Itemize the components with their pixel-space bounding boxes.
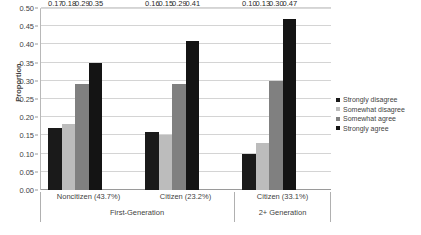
- y-axis-tick-label: 0.50: [19, 4, 34, 13]
- bar[interactable]: 0.15: [159, 135, 173, 190]
- bar-value-label: 0.41: [186, 0, 201, 8]
- x-axis-supercategory-label: 2+ Generation: [234, 208, 331, 217]
- bar-value-label: 0.15: [159, 0, 174, 8]
- y-axis-tick-label: 0.00: [19, 186, 34, 195]
- bar-cluster: 0.160.150.290.41: [138, 9, 235, 190]
- bar-item[interactable]: 0.13: [256, 9, 270, 190]
- bar[interactable]: 0.13: [256, 143, 270, 190]
- bar[interactable]: 0.29: [75, 84, 89, 190]
- legend-label: Somewhat agree: [343, 115, 396, 122]
- bar-value-label: 0.10: [242, 0, 257, 8]
- bar[interactable]: 0.10: [242, 154, 256, 190]
- x-axis-separator: [234, 192, 235, 222]
- y-axis-ticks: 0.000.050.100.150.200.250.300.350.400.45…: [0, 8, 38, 190]
- bar[interactable]: 0.17: [48, 128, 62, 190]
- y-axis-tick-mark: [35, 190, 38, 191]
- bar-value-label: 0.35: [89, 0, 104, 8]
- y-axis-tick-mark: [35, 26, 38, 27]
- bar[interactable]: 0.41: [186, 41, 200, 190]
- y-axis-tick-label: 0.25: [19, 95, 34, 104]
- bar-chart: Proportion 0.000.050.100.150.200.250.300…: [0, 0, 421, 235]
- y-axis-tick-mark: [35, 117, 38, 118]
- legend-label: Strongly agree: [343, 125, 389, 132]
- bar-item[interactable]: 0.10: [242, 9, 256, 190]
- x-axis-categories: Noncitizen (43.7%)Citizen (23.2%)Citizen…: [40, 192, 331, 232]
- bar-value-label: 0.13: [256, 0, 271, 8]
- bar-groups: 0.170.180.290.350.160.150.290.410.100.13…: [41, 9, 331, 190]
- bar-item[interactable]: 0.47: [283, 9, 297, 190]
- bar-item[interactable]: 0.30: [269, 9, 283, 190]
- legend-label: Strongly disagree: [343, 96, 397, 103]
- x-axis-separator: [40, 192, 41, 222]
- x-axis-category-label: Citizen (23.2%): [137, 192, 234, 201]
- legend-swatch-icon: [336, 107, 340, 111]
- y-axis-tick-mark: [35, 62, 38, 63]
- y-axis-tick-mark: [35, 99, 38, 100]
- y-axis-tick-label: 0.40: [19, 40, 34, 49]
- bar-group: 0.100.130.300.47: [235, 9, 332, 190]
- legend-swatch-icon: [336, 98, 340, 102]
- bar[interactable]: 0.16: [145, 132, 159, 190]
- bar-value-label: 0.29: [172, 0, 187, 8]
- y-axis-tick-mark: [35, 8, 38, 9]
- bar[interactable]: 0.47: [283, 19, 297, 190]
- legend-item[interactable]: Somewhat disagree: [336, 106, 421, 113]
- y-axis-tick-label: 0.20: [19, 113, 34, 122]
- x-axis-separator: [330, 192, 331, 222]
- bar-group: 0.170.180.290.35: [41, 9, 138, 190]
- legend-item[interactable]: Somewhat agree: [336, 115, 421, 122]
- legend-swatch-icon: [336, 117, 340, 121]
- y-axis-tick-mark: [35, 135, 38, 136]
- bar-value-label: 0.18: [62, 0, 77, 8]
- bar-value-label: 0.30: [269, 0, 284, 8]
- y-axis-tick-label: 0.10: [19, 149, 34, 158]
- bar-item[interactable]: 0.41: [186, 9, 200, 190]
- bar-item[interactable]: 0.29: [75, 9, 89, 190]
- legend-item[interactable]: Strongly disagree: [336, 96, 421, 103]
- bar-value-label: 0.17: [48, 0, 63, 8]
- y-axis-tick-mark: [35, 153, 38, 154]
- chart-legend: Strongly disagreeSomewhat disagreeSomewh…: [336, 96, 421, 134]
- y-axis-tick-label: 0.35: [19, 58, 34, 67]
- y-axis-tick-mark: [35, 44, 38, 45]
- y-axis-tick-label: 0.15: [19, 131, 34, 140]
- bar-cluster: 0.100.130.300.47: [235, 9, 332, 190]
- bar-item[interactable]: 0.35: [89, 9, 103, 190]
- bar[interactable]: 0.30: [269, 81, 283, 190]
- bar-item[interactable]: 0.18: [62, 9, 76, 190]
- bar[interactable]: 0.29: [172, 84, 186, 190]
- y-axis-tick-mark: [35, 171, 38, 172]
- bar-item[interactable]: 0.15: [159, 9, 173, 190]
- bar-item[interactable]: 0.29: [172, 9, 186, 190]
- bar-value-label: 0.47: [283, 0, 298, 8]
- y-axis-tick-mark: [35, 80, 38, 81]
- bar-value-label: 0.16: [145, 0, 160, 8]
- bar-group: 0.160.150.290.41: [138, 9, 235, 190]
- y-axis-tick-label: 0.45: [19, 22, 34, 31]
- bar-cluster: 0.170.180.290.35: [41, 9, 138, 190]
- bar-value-label: 0.29: [75, 0, 90, 8]
- bar-item[interactable]: 0.17: [48, 9, 62, 190]
- y-axis-tick-label: 0.05: [19, 167, 34, 176]
- plot-area: 0.170.180.290.350.160.150.290.410.100.13…: [40, 8, 331, 190]
- bar[interactable]: 0.18: [62, 124, 76, 190]
- legend-swatch-icon: [336, 126, 340, 130]
- x-axis-category-label: Noncitizen (43.7%): [40, 192, 137, 201]
- y-axis-tick-label: 0.30: [19, 76, 34, 85]
- legend-label: Somewhat disagree: [343, 106, 405, 113]
- bar-item[interactable]: 0.16: [145, 9, 159, 190]
- x-axis-category-label: Citizen (33.1%): [234, 192, 331, 201]
- bar[interactable]: 0.35: [89, 63, 103, 190]
- legend-item[interactable]: Strongly agree: [336, 125, 421, 132]
- x-axis-supercategory-label: First-Generation: [40, 208, 234, 217]
